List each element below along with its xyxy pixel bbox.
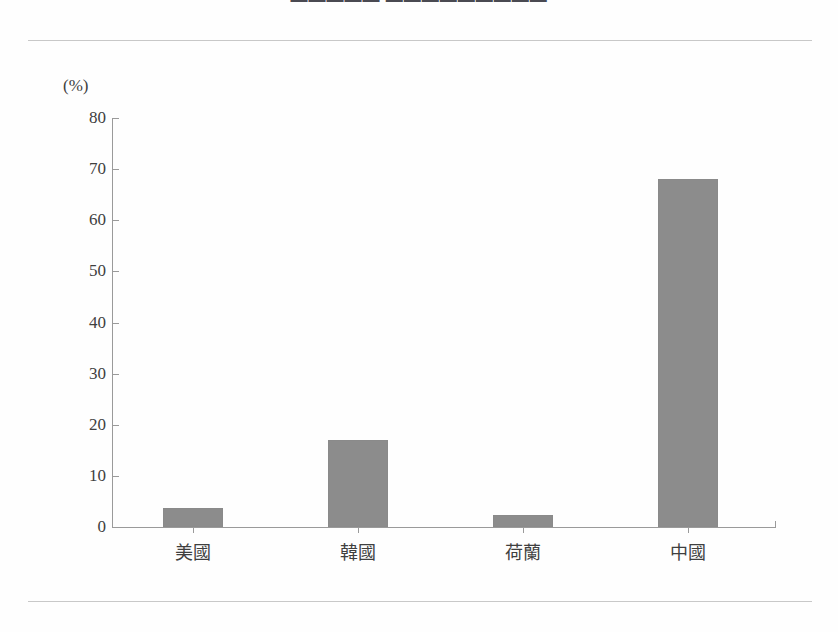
x-axis-tick: [358, 527, 359, 533]
x-axis-tick: [688, 527, 689, 533]
x-axis-category-label: 韓國: [278, 538, 438, 564]
x-axis-category-label: 美國: [113, 538, 273, 564]
y-axis-tick: [112, 118, 119, 119]
y-axis-tick: [112, 169, 119, 170]
bar-chart: (%) 01020304050607080 美國韓國荷蘭中國: [0, 0, 838, 632]
y-axis-tick: [112, 476, 119, 477]
y-axis-tick: [112, 323, 119, 324]
x-axis-category-label: 中國: [608, 538, 768, 564]
y-axis-tick: [112, 220, 119, 221]
y-axis-tick-label: 60: [62, 210, 106, 230]
y-axis-tick-label: 0: [62, 517, 106, 537]
y-axis-tick-label: 70: [62, 159, 106, 179]
y-axis-tick: [112, 374, 119, 375]
bar: [658, 179, 718, 527]
x-axis-tick: [193, 527, 194, 533]
y-axis-tick-label: 30: [62, 364, 106, 384]
y-axis-unit-label: (%): [63, 76, 88, 96]
y-axis-tick: [112, 271, 119, 272]
y-axis-tick-label: 40: [62, 313, 106, 333]
bar: [493, 515, 553, 527]
y-axis-tick-label: 80: [62, 108, 106, 128]
x-axis-end-tick: [775, 521, 776, 528]
y-axis-tick: [112, 425, 119, 426]
x-axis-tick: [523, 527, 524, 533]
bar: [163, 508, 223, 527]
x-axis-line: [112, 527, 775, 528]
x-axis-category-label: 荷蘭: [443, 538, 603, 564]
y-axis-tick-label: 50: [62, 261, 106, 281]
document-page: ▬▬▬▬▬ ▬▬▬▬▬▬▬▬▬ (%) 01020304050607080 美國…: [0, 0, 838, 632]
bar: [328, 440, 388, 527]
y-axis-tick: [112, 527, 119, 528]
y-axis-tick-label: 10: [62, 466, 106, 486]
y-axis-tick-label: 20: [62, 415, 106, 435]
